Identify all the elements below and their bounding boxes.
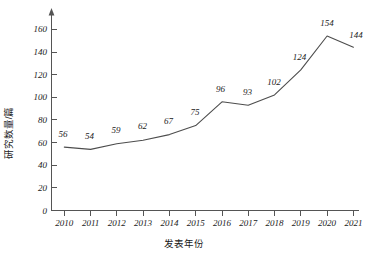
data-label-2021: 144 [349, 30, 363, 40]
x-tick-label-2017: 2017 [239, 218, 258, 228]
data-label-2018: 102 [267, 77, 281, 87]
x-tick-label-2016: 2016 [213, 218, 232, 228]
chart-container: 0 20 40 60 80 100 120 140 160 [0, 0, 375, 256]
x-tick-label-2014: 2014 [160, 218, 179, 228]
data-label-2010: 56 [59, 129, 69, 139]
x-tick-label-2010: 2010 [55, 218, 74, 228]
x-tick-label-2021: 2021 [344, 218, 362, 228]
y-tick-label-20: 20 [38, 183, 48, 193]
x-axis-ticks [64, 211, 353, 216]
data-label-2014: 67 [164, 116, 174, 126]
x-tick-label-2020: 2020 [318, 218, 337, 228]
y-tick-label-60: 60 [38, 138, 48, 148]
x-tick-label-2012: 2012 [108, 218, 127, 228]
x-tick-label-2013: 2013 [134, 218, 153, 228]
y-axis-title: 研究数量/篇 [3, 107, 14, 160]
x-tick-label-2018: 2018 [266, 218, 285, 228]
x-axis-tick-labels: 2010 2011 2012 2013 2014 2015 2016 2017 … [55, 218, 362, 228]
data-label-2012: 59 [112, 125, 122, 135]
data-label-2016: 96 [216, 84, 226, 94]
y-tick-label-0: 0 [43, 206, 48, 216]
x-tick-label-2011: 2011 [82, 218, 99, 228]
x-tick-label-2015: 2015 [187, 218, 206, 228]
y-tick-label-80: 80 [38, 115, 48, 125]
y-axis-ticks [52, 29, 57, 210]
data-label-2020: 154 [320, 18, 334, 28]
data-label-2019: 124 [293, 52, 307, 62]
y-axis-arrow-icon [49, 8, 55, 16]
y-tick-label-160: 160 [34, 24, 48, 34]
line-chart: 0 20 40 60 80 100 120 140 160 [0, 0, 375, 256]
x-axis-title: 发表年份 [164, 238, 204, 249]
data-label-2017: 93 [243, 87, 253, 97]
y-tick-label-120: 120 [34, 70, 48, 80]
x-tick-label-2019: 2019 [292, 218, 311, 228]
y-tick-label-100: 100 [34, 92, 48, 102]
data-series-line [64, 36, 353, 149]
data-point-labels: 56 54 59 62 67 75 96 93 102 124 154 144 [59, 18, 364, 141]
y-tick-label-140: 140 [34, 47, 48, 57]
y-tick-label-40: 40 [38, 160, 48, 170]
data-label-2013: 62 [138, 121, 148, 131]
y-axis-tick-labels: 0 20 40 60 80 100 120 140 160 [34, 24, 48, 215]
data-label-2015: 75 [191, 107, 201, 117]
data-label-2011: 54 [85, 131, 95, 141]
